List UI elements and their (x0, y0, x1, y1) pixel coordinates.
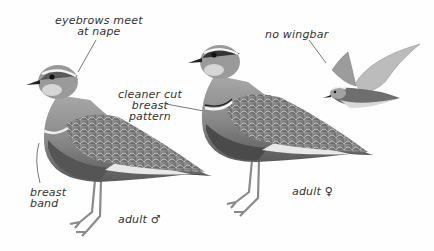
eyebrows-annotation: eyebrows meet at nape (55, 15, 143, 37)
female-symbol-icon: ♀ (325, 185, 333, 198)
male-symbol-icon: ♂ (151, 213, 161, 226)
wingbar-annotation: no wingbar (265, 29, 328, 40)
breast-pattern-annotation: cleaner cut breast pattern (118, 89, 182, 122)
male-caption-text: adult (118, 213, 147, 226)
female-caption: adult ♀ (292, 186, 333, 197)
birds-artwork (0, 0, 434, 251)
eyebrows-line-2: at nape (55, 26, 143, 37)
bird-illustration: eyebrows meet at nape cleaner cut breast… (0, 0, 434, 251)
male-caption: adult ♂ (118, 214, 161, 225)
female-caption-text: adult (292, 185, 321, 198)
breast-band-line-2: band (30, 198, 66, 209)
breast-band-annotation: breast band (30, 187, 66, 209)
breast-pattern-line-3: pattern (118, 111, 182, 122)
flying-bird (323, 44, 420, 108)
